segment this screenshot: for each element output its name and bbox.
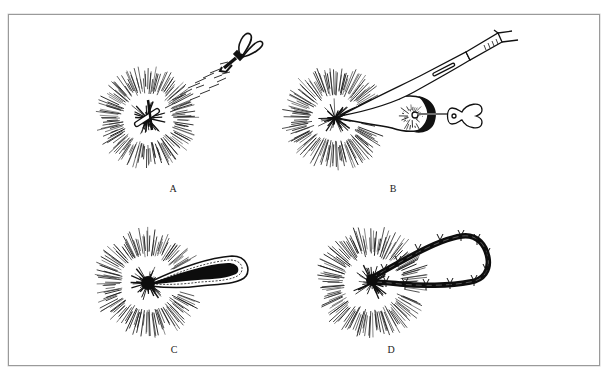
sutured-loop-d [372, 236, 488, 286]
panel-label-d: D [381, 345, 401, 355]
panel-b-illustration [282, 30, 518, 170]
panel-c-illustration [95, 227, 248, 338]
panel-label-a: A [163, 184, 183, 194]
panel-d-illustration [317, 227, 490, 338]
wound-center-c [141, 276, 155, 290]
illustration-canvas [0, 0, 608, 374]
syringe-bulb-a [220, 33, 263, 72]
surgical-figure: A B C D [0, 0, 608, 374]
panel-label-c: C [164, 345, 184, 355]
panel-label-b: B [383, 184, 403, 194]
panel-a-illustration [96, 33, 263, 168]
sutured-loop-highlight-d [372, 236, 488, 286]
wound-center-d [366, 274, 378, 286]
